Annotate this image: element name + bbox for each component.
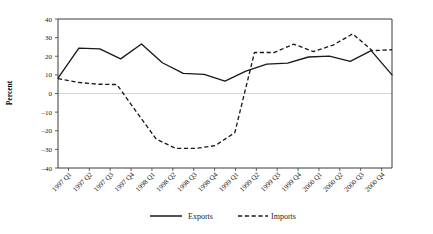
y-tick-label: 20 bbox=[45, 53, 53, 61]
x-tick-label: 1998 Q4 bbox=[197, 170, 220, 193]
x-tick-label: 1997 Q1 bbox=[51, 170, 74, 193]
x-axis-ticks: 1997 Q11997 Q21997 Q31997 Q41998 Q11998 … bbox=[51, 168, 387, 194]
series-line-exports bbox=[58, 44, 392, 81]
y-axis-title: Percent bbox=[5, 80, 14, 105]
legend-label-imports: Imports bbox=[271, 212, 296, 221]
x-tick-label: 1999 Q4 bbox=[280, 170, 303, 193]
y-tick-label: –30 bbox=[41, 146, 53, 154]
x-tick-label: 1998 Q3 bbox=[176, 170, 199, 193]
chart-legend: Exports Imports bbox=[150, 212, 296, 221]
y-tick-label: 40 bbox=[45, 16, 53, 24]
x-tick-label: 2000 Q3 bbox=[343, 170, 366, 193]
x-tick-label: 1997 Q4 bbox=[113, 170, 136, 193]
x-tick-label: 1998 Q1 bbox=[134, 170, 157, 193]
y-axis-title-label: Percent bbox=[5, 80, 14, 105]
quarterly-exports-imports-line-chart: Percent 403020100–10–20–30–40 1997 Q1199… bbox=[0, 0, 433, 234]
y-tick-label: 0 bbox=[49, 90, 53, 98]
y-tick-label: –10 bbox=[41, 109, 53, 117]
y-axis-ticks: 403020100–10–20–30–40 bbox=[41, 16, 59, 173]
y-tick-label: 10 bbox=[45, 71, 53, 79]
x-tick-label: 1997 Q3 bbox=[92, 170, 115, 193]
chart-container: Percent 403020100–10–20–30–40 1997 Q1199… bbox=[0, 0, 433, 234]
x-tick-label: 2000 Q4 bbox=[364, 170, 387, 193]
x-tick-label: 1998 Q2 bbox=[155, 170, 178, 193]
x-tick-label: 2000 Q1 bbox=[301, 170, 324, 193]
series-line-imports bbox=[58, 34, 392, 149]
y-tick-label: –40 bbox=[41, 165, 53, 173]
y-tick-label: 30 bbox=[45, 34, 53, 42]
x-tick-label: 1997 Q2 bbox=[71, 170, 94, 193]
x-tick-label: 1999 Q3 bbox=[259, 170, 282, 193]
x-tick-label: 1999 Q1 bbox=[218, 170, 241, 193]
legend-label-exports: Exports bbox=[188, 212, 213, 221]
y-tick-label: –20 bbox=[41, 127, 53, 135]
x-tick-label: 2000 Q2 bbox=[322, 170, 345, 193]
x-tick-label: 1999 Q2 bbox=[238, 170, 261, 193]
